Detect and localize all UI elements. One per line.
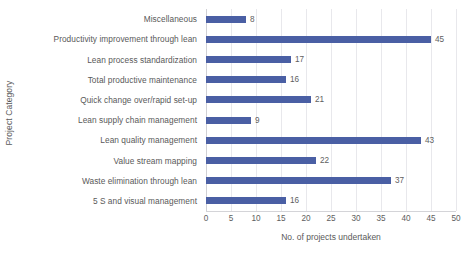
bar-row: 17	[206, 49, 456, 69]
x-tick-label: 0	[204, 214, 209, 223]
gridline	[456, 9, 457, 211]
bar	[206, 16, 246, 23]
bar-value-label: 16	[290, 196, 299, 205]
category-label: Lean supply chain management	[18, 110, 202, 130]
bar-value-label: 9	[255, 116, 260, 125]
bar-row: 37	[206, 171, 456, 191]
x-tick-label: 50	[451, 214, 460, 223]
x-tick-label: 40	[401, 214, 410, 223]
x-tick-label: 5	[229, 214, 234, 223]
bar-value-label: 17	[295, 55, 304, 64]
bar	[206, 36, 431, 43]
bar-chart: Project Category MiscellaneousProductivi…	[0, 0, 472, 259]
x-tick-label: 30	[351, 214, 360, 223]
plot-area: 845171621943223716	[206, 9, 456, 211]
x-axis-title: No. of projects undertaken	[206, 232, 456, 242]
x-tick-label: 45	[426, 214, 435, 223]
bar-value-label: 22	[320, 156, 329, 165]
bar-row: 21	[206, 90, 456, 110]
bar-series: 845171621943223716	[206, 9, 456, 211]
bar	[206, 76, 286, 83]
x-tick-label: 10	[251, 214, 260, 223]
bar-value-label: 43	[425, 136, 434, 145]
bar-row: 16	[206, 70, 456, 90]
bar-value-label: 45	[435, 35, 444, 44]
bar	[206, 197, 286, 204]
bar-row: 43	[206, 130, 456, 150]
bar-value-label: 8	[250, 15, 255, 24]
category-axis-labels: MiscellaneousProductivity improvement th…	[18, 9, 202, 211]
bar	[206, 157, 316, 164]
bar-row: 8	[206, 9, 456, 29]
x-tick-label: 25	[326, 214, 335, 223]
bar-row: 22	[206, 150, 456, 170]
bar	[206, 137, 421, 144]
category-label: Lean quality management	[18, 130, 202, 150]
bar-row: 16	[206, 191, 456, 211]
category-label: Waste elimination through lean	[18, 171, 202, 191]
bar	[206, 96, 311, 103]
bar-row: 45	[206, 29, 456, 49]
category-label: Lean process standardization	[18, 49, 202, 69]
x-tick-label: 20	[301, 214, 310, 223]
bar	[206, 56, 291, 63]
category-label: Quick change over/rapid set-up	[18, 90, 202, 110]
y-axis-title-text: Project Category	[4, 80, 14, 145]
bar	[206, 117, 251, 124]
x-tick-label: 35	[376, 214, 385, 223]
y-axis-title: Project Category	[0, 0, 18, 225]
bar-row: 9	[206, 110, 456, 130]
category-label: Total productive maintenance	[18, 70, 202, 90]
bar-value-label: 21	[315, 95, 324, 104]
bar-value-label: 16	[290, 75, 299, 84]
category-label: 5 S and visual management	[18, 191, 202, 211]
category-label: Miscellaneous	[18, 9, 202, 29]
x-axis-tick-labels: 05101520253035404550	[206, 214, 456, 228]
x-tick-label: 15	[276, 214, 285, 223]
bar-value-label: 37	[395, 176, 404, 185]
category-label: Value stream mapping	[18, 150, 202, 170]
category-label: Productivity improvement through lean	[18, 29, 202, 49]
x-axis-line	[206, 211, 456, 212]
bar	[206, 177, 391, 184]
